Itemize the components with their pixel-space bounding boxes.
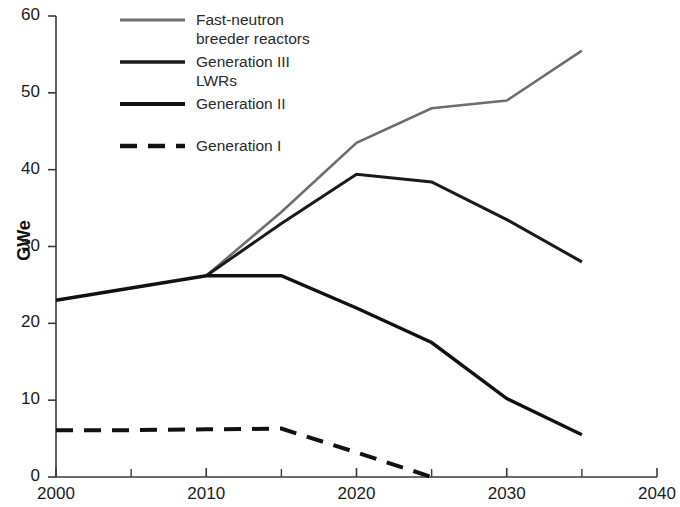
series-line-1 [206, 174, 582, 275]
x-tick-label: 2040 [622, 484, 680, 504]
data-series-group [56, 51, 582, 477]
y-tick-label: 20 [0, 312, 40, 332]
x-tick-label: 2000 [21, 484, 91, 504]
x-tick-label: 2020 [322, 484, 392, 504]
y-tick-label: 40 [0, 159, 40, 179]
axes [48, 16, 657, 477]
x-tick-label: 2030 [472, 484, 542, 504]
legend-entry-label: Generation III LWRs [196, 52, 290, 90]
y-axis-ticks [48, 16, 56, 477]
series-line-3 [56, 429, 432, 477]
x-axis-ticks [56, 468, 657, 477]
y-tick-label: 60 [0, 5, 40, 25]
series-line-2 [56, 276, 582, 435]
y-tick-label: 50 [0, 82, 40, 102]
legend-entry-label: Generation II [196, 94, 286, 113]
y-tick-label: 0 [0, 466, 40, 486]
x-tick-label: 2010 [171, 484, 241, 504]
legend-entry-label: Fast-neutron breeder reactors [196, 10, 310, 48]
legend-swatches [120, 20, 185, 146]
legend-entry-label: Generation I [196, 136, 281, 155]
y-tick-label: 10 [0, 389, 40, 409]
y-tick-label: 30 [0, 236, 40, 256]
